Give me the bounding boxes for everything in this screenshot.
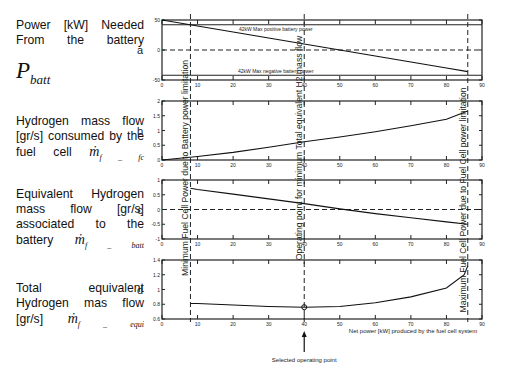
- svg-text:a: a: [137, 44, 144, 56]
- svg-text:50: 50: [337, 162, 343, 168]
- svg-text:80: 80: [444, 162, 450, 168]
- svg-text:0.6: 0.6: [153, 316, 160, 322]
- svg-text:b: b: [137, 125, 143, 137]
- svg-text:0: 0: [157, 157, 160, 163]
- svg-text:42kW Max positive battery powe: 42kW Max positive battery power: [239, 26, 313, 32]
- svg-text:80: 80: [444, 321, 450, 327]
- chart-svg: 0102030405060708090-50050a42kW Max posit…: [0, 0, 510, 369]
- svg-text:-1: -1: [156, 236, 161, 242]
- svg-text:50: 50: [337, 241, 343, 247]
- svg-text:80: 80: [444, 241, 450, 247]
- svg-text:10: 10: [195, 241, 201, 247]
- svg-text:0.5: 0.5: [153, 192, 160, 198]
- svg-text:1: 1: [157, 128, 160, 134]
- svg-text:30: 30: [266, 241, 272, 247]
- annotation-max-fc: Maximum Fuel Cell Power due to Fuel Cell…: [458, 87, 468, 312]
- svg-text:60: 60: [373, 162, 379, 168]
- svg-text:10: 10: [195, 321, 201, 327]
- svg-text:70: 70: [408, 321, 414, 327]
- x-axis-label: Net power [kW] produced by the fuel cell…: [349, 328, 477, 334]
- svg-text:90: 90: [479, 241, 485, 247]
- svg-text:1: 1: [157, 177, 160, 183]
- svg-text:90: 90: [479, 82, 485, 88]
- svg-text:20: 20: [230, 82, 236, 88]
- svg-text:50: 50: [154, 17, 160, 23]
- annotation-min-fc: Minimum Fuel Cell Power due to Battery p…: [180, 60, 190, 276]
- svg-text:70: 70: [408, 82, 414, 88]
- svg-text:20: 20: [230, 162, 236, 168]
- svg-text:60: 60: [373, 321, 379, 327]
- series-m_f_fc: [162, 111, 468, 160]
- selected-point-label: Selected operating point: [272, 357, 337, 363]
- svg-text:0: 0: [161, 241, 164, 247]
- annotation-op-point: Operating point for minimum Total equiva…: [294, 35, 304, 260]
- svg-text:0: 0: [161, 82, 164, 88]
- svg-text:2: 2: [157, 98, 160, 104]
- svg-text:20: 20: [230, 321, 236, 327]
- svg-text:0: 0: [161, 162, 164, 168]
- svg-text:0.8: 0.8: [153, 301, 160, 307]
- svg-text:60: 60: [373, 82, 379, 88]
- svg-text:1: 1: [157, 287, 160, 293]
- svg-text:1.4: 1.4: [153, 257, 160, 263]
- svg-text:0: 0: [157, 207, 160, 213]
- svg-text:60: 60: [373, 241, 379, 247]
- svg-text:10: 10: [195, 162, 201, 168]
- svg-text:1.5: 1.5: [153, 113, 160, 119]
- svg-text:30: 30: [266, 162, 272, 168]
- svg-text:70: 70: [408, 241, 414, 247]
- svg-text:1.2: 1.2: [153, 272, 160, 278]
- svg-text:50: 50: [337, 321, 343, 327]
- svg-text:90: 90: [479, 321, 485, 327]
- series-P_batt: [162, 20, 468, 72]
- svg-text:-0.5: -0.5: [151, 221, 160, 227]
- svg-text:0.5: 0.5: [153, 142, 160, 148]
- svg-text:c: c: [137, 204, 143, 216]
- svg-text:70: 70: [408, 162, 414, 168]
- svg-text:20: 20: [230, 241, 236, 247]
- svg-text:80: 80: [444, 82, 450, 88]
- svg-text:-50: -50: [153, 77, 160, 83]
- svg-text:0: 0: [161, 321, 164, 327]
- svg-text:90: 90: [479, 162, 485, 168]
- svg-text:30: 30: [266, 321, 272, 327]
- svg-text:30: 30: [266, 82, 272, 88]
- series-m_f_equi: [190, 266, 467, 307]
- svg-text:50: 50: [337, 82, 343, 88]
- series-m_f_batt: [190, 188, 467, 224]
- svg-text:0: 0: [157, 47, 160, 53]
- svg-text:10: 10: [195, 82, 201, 88]
- svg-text:d: d: [137, 284, 143, 296]
